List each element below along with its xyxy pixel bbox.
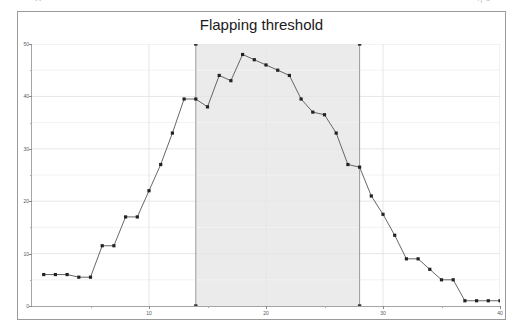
y-axis-minor-tick [30, 70, 32, 71]
flapping-boundary-marker [358, 304, 361, 306]
data-point-marker [463, 299, 466, 302]
y-axis-tick-mark [29, 306, 32, 307]
y-axis-tick-mark [29, 201, 32, 202]
data-point-marker [241, 53, 244, 56]
data-point-marker [452, 278, 455, 281]
screenshot-root: ττ η 3 Flapping threshold 01020304050102… [0, 0, 515, 330]
x-axis-minor-tick [91, 306, 92, 308]
data-point-marker [487, 299, 490, 302]
y-axis-tick-mark [29, 254, 32, 255]
plot-area: 0102030405010203040 [31, 44, 500, 307]
data-point-marker [183, 97, 186, 100]
data-point-marker [288, 74, 291, 77]
data-point-marker [370, 194, 373, 197]
data-point-marker [323, 113, 326, 116]
y-axis-tick-mark [29, 149, 32, 150]
data-point-marker [206, 105, 209, 108]
data-point-marker [253, 58, 256, 61]
data-point-marker [498, 299, 500, 302]
chart-title: Flapping threshold [18, 16, 505, 33]
data-point-marker [101, 244, 104, 247]
x-axis-tick-label: 30 [380, 310, 386, 316]
page-top-cutoff-strip: ττ η 3 [0, 0, 515, 11]
y-axis-minor-tick [30, 227, 32, 228]
data-point-marker [335, 131, 338, 134]
x-axis-tick-label: 20 [263, 310, 269, 316]
chart-frame: Flapping threshold 0102030405010203040 [17, 11, 506, 320]
data-point-marker [393, 234, 396, 237]
data-point-marker [229, 79, 232, 82]
x-axis-tick-mark [383, 306, 384, 309]
data-point-marker [299, 97, 302, 100]
ghost-text-left: ττ [34, 0, 42, 3]
chart-plot-svg [32, 44, 500, 306]
data-point-marker [42, 273, 45, 276]
data-point-marker [416, 257, 419, 260]
data-point-marker [405, 257, 408, 260]
data-point-marker [171, 131, 174, 134]
data-point-marker [218, 74, 221, 77]
data-point-marker [381, 213, 384, 216]
y-axis-tick-mark [29, 96, 32, 97]
data-point-marker [112, 244, 115, 247]
x-axis-minor-tick [442, 306, 443, 308]
data-point-marker [440, 278, 443, 281]
flapping-boundary-marker [194, 304, 197, 306]
y-axis-minor-tick [30, 123, 32, 124]
data-point-marker [264, 63, 267, 66]
data-point-marker [428, 268, 431, 271]
x-axis-tick-label: 40 [497, 310, 503, 316]
y-axis-tick-mark [29, 44, 32, 45]
data-point-marker [475, 299, 478, 302]
x-axis-tick-mark [266, 306, 267, 309]
data-point-marker [89, 276, 92, 279]
data-point-marker [136, 215, 139, 218]
ghost-text-right: η 3 [477, 0, 491, 3]
data-point-marker [276, 69, 279, 72]
data-point-marker [346, 163, 349, 166]
flapping-boundary-marker [194, 44, 197, 46]
y-axis-minor-tick [30, 280, 32, 281]
x-axis-minor-tick [208, 306, 209, 308]
x-axis-minor-tick [325, 306, 326, 308]
data-point-marker [54, 273, 57, 276]
x-axis-tick-mark [500, 306, 501, 309]
data-point-marker [358, 166, 361, 169]
data-point-marker [147, 189, 150, 192]
data-point-marker [194, 97, 197, 100]
x-axis-tick-label: 10 [146, 310, 152, 316]
data-point-marker [311, 111, 314, 114]
y-axis-minor-tick [30, 175, 32, 176]
data-point-marker [159, 163, 162, 166]
flapping-boundary-marker [358, 44, 361, 46]
data-point-marker [77, 276, 80, 279]
data-point-marker [65, 273, 68, 276]
data-point-marker [124, 215, 127, 218]
x-axis-tick-mark [149, 306, 150, 309]
